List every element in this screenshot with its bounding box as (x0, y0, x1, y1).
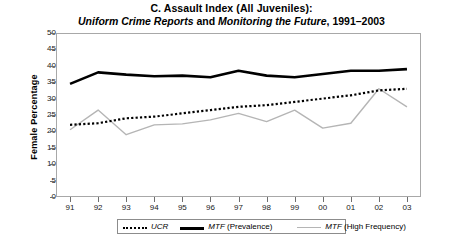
series-line-mtf-prevalence (70, 69, 407, 84)
x-tick-label: 99 (283, 204, 307, 212)
x-tick-mark (239, 197, 240, 202)
x-tick-label: 93 (114, 204, 138, 212)
x-tick-label: 92 (86, 204, 110, 212)
legend-item-ucr: UCR (118, 220, 168, 233)
y-tick-mark (50, 181, 55, 182)
legend-label-mtf-high-frequency: MTF (High Frequency) (325, 222, 405, 231)
x-tick-mark (295, 197, 296, 202)
x-tick-label: 96 (198, 204, 222, 212)
x-tick-label: 01 (339, 204, 363, 212)
x-tick-mark (98, 197, 99, 202)
x-tick-label: 97 (227, 204, 251, 212)
x-tick-mark (351, 197, 352, 202)
series-line-ucr (70, 89, 407, 125)
chart-title-line-1: C. Assault Index (All Juveniles): (0, 2, 463, 15)
y-tick-mark (50, 99, 55, 100)
legend-swatch-mtf-prevalence-icon (180, 222, 204, 232)
y-tick-mark (50, 164, 55, 165)
legend-item-mtf-high-frequency: MTF (High Frequency) (292, 220, 405, 233)
x-tick-label: 94 (142, 204, 166, 212)
y-tick-mark (50, 82, 55, 83)
y-tick-mark (50, 131, 55, 132)
x-tick-label: 95 (170, 204, 194, 212)
y-axis-ticks: 05101520253035404550 (0, 33, 56, 197)
legend-item-mtf-prevalence: MTF (Prevalence) (175, 220, 272, 233)
x-tick-mark (182, 197, 183, 202)
legend-label-ucr: UCR (151, 222, 168, 231)
chart-title-year-range: , 1991–2003 (327, 15, 385, 27)
y-tick-mark (50, 148, 55, 149)
y-tick-mark (50, 49, 55, 50)
x-tick-mark (379, 197, 380, 202)
series-lines-layer (56, 33, 421, 197)
x-tick-mark (70, 197, 71, 202)
x-tick-label: 02 (367, 204, 391, 212)
chart-title: C. Assault Index (All Juveniles): Unifor… (0, 2, 463, 28)
y-tick-mark (50, 66, 55, 67)
x-tick-mark (267, 197, 268, 202)
x-tick-label: 98 (255, 204, 279, 212)
x-tick-mark (407, 197, 408, 202)
y-tick-mark (50, 115, 55, 116)
x-tick-label: 00 (311, 204, 335, 212)
chart-title-conjunction: and (194, 15, 219, 27)
x-tick-mark (323, 197, 324, 202)
y-tick-mark (50, 197, 55, 198)
y-tick-mark (50, 33, 55, 34)
x-tick-mark (126, 197, 127, 202)
legend-label-mtf-prevalence: MTF (Prevalence) (208, 222, 272, 231)
x-tick-mark (210, 197, 211, 202)
chart-title-source-ucr: Uniform Crime Reports (78, 15, 194, 27)
chart-legend: UCR MTF (Prevalence) MTF (High Frequency… (117, 219, 346, 234)
chart-title-line-2: Uniform Crime Reports and Monitoring the… (0, 15, 463, 28)
chart-title-source-mtf: Monitoring the Future (218, 15, 326, 27)
x-tick-label: 91 (58, 204, 82, 212)
legend-swatch-ucr-icon (123, 222, 147, 232)
x-tick-mark (154, 197, 155, 202)
x-axis-ticks: 91929394959697989900010203 (56, 197, 421, 219)
x-tick-label: 03 (395, 204, 419, 212)
series-line-mtf-high-frequency (70, 89, 407, 135)
assault-index-chart-figure: C. Assault Index (All Juveniles): Unifor… (0, 0, 463, 244)
legend-swatch-mtf-high-frequency-icon (297, 222, 321, 232)
